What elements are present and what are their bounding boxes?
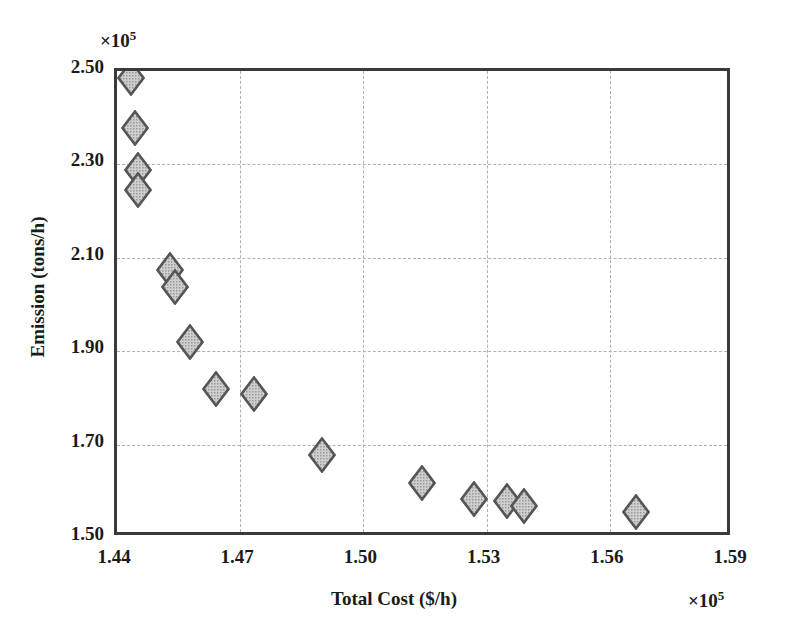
x-axis-tick-label: 1.50	[320, 546, 400, 568]
gridline-horizontal	[117, 164, 727, 165]
x-axis-tick-label: 1.53	[444, 546, 524, 568]
data-point-marker	[124, 152, 152, 188]
data-point-marker	[240, 376, 268, 412]
data-point-marker	[460, 481, 488, 517]
y-axis-exponent-power: 5	[130, 28, 137, 43]
data-point-marker	[510, 488, 538, 524]
y-axis-tick-label: 2.30	[34, 149, 104, 171]
data-point-marker	[161, 269, 189, 305]
gridline-vertical	[363, 71, 364, 532]
data-point-marker	[202, 371, 230, 407]
plot-area	[114, 68, 730, 535]
gridline-horizontal	[117, 351, 727, 352]
data-point-marker	[308, 437, 336, 473]
plot-inner-canvas	[117, 71, 727, 532]
data-point-marker	[176, 324, 204, 360]
y-axis-exponent-base: ×10	[100, 30, 130, 51]
gridline-horizontal	[117, 258, 727, 259]
y-axis-exponent-label: ×105	[100, 28, 136, 52]
gridline-vertical	[240, 71, 241, 532]
gridline-vertical	[610, 71, 611, 532]
gridline-horizontal	[117, 445, 727, 446]
data-point-marker	[117, 71, 145, 96]
data-point-marker	[121, 110, 149, 146]
data-point-marker	[622, 494, 650, 530]
y-axis-tick-label: 2.50	[34, 56, 104, 78]
x-axis-tick-label: 1.56	[567, 546, 647, 568]
x-axis-tick-label: 1.59	[690, 546, 770, 568]
data-point-marker	[493, 483, 521, 519]
y-axis-title: Emission (tons/h)	[27, 177, 49, 397]
y-axis-tick-label: 1.70	[34, 430, 104, 452]
scatter-chart-figure: ×105 ×105 1.501.701.902.102.302.50 1.441…	[0, 0, 788, 638]
data-point-marker	[408, 465, 436, 501]
x-axis-title: Total Cost ($/h)	[0, 588, 788, 610]
x-axis-tick-label: 1.44	[74, 546, 154, 568]
gridline-vertical	[487, 71, 488, 532]
data-point-marker	[124, 172, 152, 208]
y-axis-tick-label: 1.50	[34, 523, 104, 545]
x-axis-tick-label: 1.47	[197, 546, 277, 568]
